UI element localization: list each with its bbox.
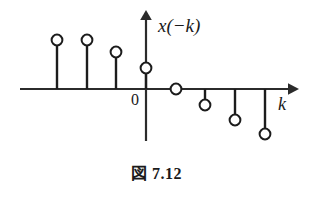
vertical-axis-arrowhead	[140, 10, 152, 20]
y-axis-label: x(−k)	[157, 15, 200, 37]
sample-marker-k-2	[230, 115, 241, 126]
horizontal-axis-arrowhead	[288, 83, 299, 95]
figure-caption: 図 7.12	[0, 160, 313, 184]
sample-marker-k-0	[171, 84, 182, 95]
figure-container: x(−k) k 0 図 7.12	[0, 0, 313, 201]
sample-marker-k-minus-1	[141, 63, 152, 74]
sample-marker-k-minus-2	[111, 47, 122, 58]
sample-marker-k-minus-4	[52, 35, 63, 46]
sample-marker-k-3	[260, 129, 271, 140]
stem-group-positive	[52, 35, 152, 89]
sample-marker-k-minus-3	[82, 35, 93, 46]
origin-label: 0	[131, 91, 139, 108]
x-axis-label: k	[278, 94, 287, 114]
sample-marker-k-1	[200, 100, 211, 111]
stem-group-negative	[200, 89, 271, 139]
stem-group-zero	[171, 84, 182, 95]
